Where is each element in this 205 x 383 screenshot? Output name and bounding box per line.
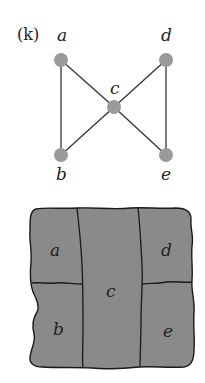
region-label-b: b (53, 319, 64, 339)
panel-label: (k) (17, 25, 39, 44)
node-label-b: b (56, 164, 67, 184)
region-label-d: d (161, 240, 172, 260)
edge-c-e (114, 107, 166, 155)
edge-c-d (114, 60, 166, 107)
region-label-e: e (163, 321, 173, 341)
node-d (159, 53, 173, 67)
region-label-c: c (106, 281, 116, 301)
node-c (107, 100, 121, 114)
node-label-d: d (161, 25, 172, 45)
edge-a-c (61, 60, 114, 107)
figure: (k) a b c d e a b c d e (0, 0, 205, 383)
edge-b-c (61, 107, 114, 155)
node-label-a: a (57, 25, 67, 45)
node-label-c: c (110, 78, 120, 98)
node-b (54, 148, 68, 162)
node-label-e: e (161, 164, 171, 184)
node-a (54, 53, 68, 67)
node-e (159, 148, 173, 162)
region-label-a: a (50, 240, 60, 260)
